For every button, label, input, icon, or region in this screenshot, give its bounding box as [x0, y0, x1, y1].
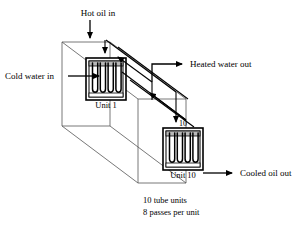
diagram-page: Unit 1 10 Unit 10 Hot oil in [0, 0, 304, 230]
unit-10-bottom-band [166, 163, 200, 167]
unit-1-assembly: Unit 1 [86, 58, 126, 110]
note-line-2: 8 passes per unit [143, 207, 200, 217]
oil-flow-arrow-lower [150, 93, 186, 120]
oil-run-upper-b [118, 47, 188, 99]
diagram-notes: 10 tube units 8 passes per unit [143, 195, 200, 217]
heated-water-out-label: Heated water out [190, 59, 252, 69]
heated-water-out-arrow [152, 64, 182, 82]
stream-cold-water-in: Cold water in [5, 71, 99, 81]
note-line-1: 10 tube units [143, 195, 187, 205]
oil-run-lower-b [130, 80, 194, 127]
cold-water-in-label: Cold water in [5, 71, 54, 81]
hot-oil-in-label: Hot oil in [81, 8, 116, 18]
heat-exchanger-diagram: Unit 1 10 Unit 10 Hot oil in [0, 0, 304, 230]
stream-cooled-oil-out: Cooled oil out [203, 168, 292, 178]
unit-10-assembly: 10 Unit 10 [163, 119, 203, 180]
cooled-oil-out-label: Cooled oil out [240, 168, 292, 178]
stream-hot-oil-in: Hot oil in [81, 8, 116, 53]
unit-1-bottom-band [89, 93, 123, 97]
unit-10-label: Unit 10 [170, 170, 196, 180]
shell-edge-bottom-left [62, 126, 138, 183]
unit-1-label: Unit 1 [95, 100, 117, 110]
stream-heated-water-out: Heated water out [152, 59, 252, 82]
